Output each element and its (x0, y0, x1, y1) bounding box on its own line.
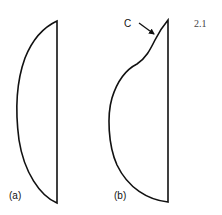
profile-shape-a (17, 21, 57, 203)
profile-a-outline (17, 21, 57, 203)
shape-b-label: (b) (114, 190, 126, 201)
annotation-c-label: C (124, 18, 131, 29)
figure-number: 2.1 (194, 18, 207, 29)
profile-shape-b (109, 20, 168, 202)
annotation-arrow-icon (139, 23, 154, 34)
shape-a-label: (a) (9, 190, 21, 201)
profile-b-outline (109, 20, 168, 202)
figure-canvas: (a) (b) C 2.1 (0, 0, 222, 215)
